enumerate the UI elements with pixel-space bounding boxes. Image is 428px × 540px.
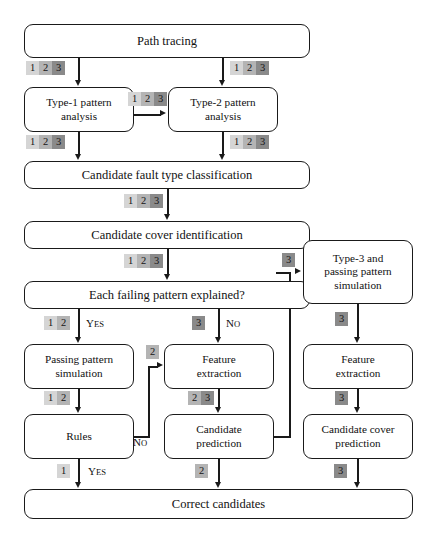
badge-type-1: 1	[230, 61, 243, 75]
arrowhead-feature-right-to-cover-prediction	[354, 407, 360, 413]
node-label: Candidate fault type classification	[78, 168, 256, 183]
badge-type-2: 2	[137, 194, 150, 208]
node-label: Feature extraction	[332, 353, 385, 379]
node-path-tracing[interactable]: Path tracing	[24, 24, 310, 58]
edge-rules-yes-to-correct	[78, 459, 80, 482]
badge-type-3: 3	[154, 92, 167, 106]
node-feature-extraction-middle[interactable]: Feature extraction	[164, 344, 274, 389]
badge-failing-yes: 1 2	[44, 316, 70, 330]
branch-label-text: N	[133, 436, 141, 448]
badge-type-2: 2	[188, 391, 201, 405]
badge-type-1: 1	[57, 464, 70, 478]
edge-prediction-to-type3-seg-h2	[276, 272, 291, 274]
edge-prediction-to-correct	[218, 459, 220, 482]
badge-type1-to-type2: 1 2 3	[128, 92, 167, 106]
edge-passing-sim-to-rules	[78, 389, 80, 407]
badge-path-to-type1: 1 2 3	[26, 61, 65, 75]
branch-label-text: Y	[88, 465, 96, 477]
edge-type1-to-classification	[78, 132, 80, 155]
arrowhead-type3-to-feature-right	[354, 337, 360, 343]
node-label: Candidate cover prediction	[318, 423, 399, 449]
badge-failing-no: 3	[192, 316, 205, 330]
badge-rules-no-to-feature-mid: 2	[146, 345, 159, 359]
badge-type-2: 2	[141, 92, 154, 106]
badge-rules-yes-to-correct: 1	[57, 464, 70, 478]
badge-type-2: 2	[57, 391, 70, 405]
branch-label-text: N	[226, 317, 234, 329]
node-label: Passing pattern simulation	[41, 353, 117, 379]
badge-type-2: 2	[137, 254, 150, 268]
node-correct-candidates[interactable]: Correct candidates	[24, 489, 413, 519]
branch-label-yes-failing: YES	[86, 317, 104, 329]
badge-type-3: 3	[335, 312, 348, 326]
arrowhead-prediction-to-correct	[215, 482, 221, 488]
edge-path-to-type2	[222, 58, 224, 81]
arrowhead-path-to-type1	[75, 80, 81, 86]
badge-type-1: 1	[26, 61, 39, 75]
branch-label-text: Y	[86, 317, 94, 329]
node-label: Candidate cover identification	[87, 228, 246, 243]
badge-type-1: 1	[124, 194, 137, 208]
node-rules[interactable]: Rules	[24, 414, 134, 459]
badge-cover-to-failing: 1 2 3	[124, 254, 163, 268]
badge-type-3: 3	[334, 464, 347, 478]
badge-passing-sim-to-rules: 1 2	[44, 391, 70, 405]
flowchart-diagram: Path tracing Type-1 pattern analysis Typ…	[0, 0, 428, 540]
badge-type2-to-classification: 1 2 3	[230, 135, 269, 149]
node-label: Feature extraction	[193, 353, 246, 379]
node-label: Candidate prediction	[192, 423, 245, 449]
badge-type-3: 3	[52, 135, 65, 149]
badge-feature-mid-to-prediction: 2 3	[188, 391, 214, 405]
node-candidate-prediction[interactable]: Candidate prediction	[164, 414, 274, 459]
arrowhead-type1-to-classification	[75, 154, 81, 160]
node-type2-pattern-analysis[interactable]: Type-2 pattern analysis	[168, 87, 278, 132]
badge-type3-to-feature-right: 3	[335, 312, 348, 326]
badge-type-2: 2	[195, 464, 208, 478]
node-each-failing-pattern-explained[interactable]: Each failing pattern explained?	[24, 281, 310, 309]
arrowhead-classification-to-cover	[164, 214, 170, 220]
node-candidate-cover-prediction[interactable]: Candidate cover prediction	[303, 414, 413, 459]
badge-type-3: 3	[52, 61, 65, 75]
badge-type1-to-classification: 1 2 3	[26, 135, 65, 149]
badge-prediction-to-type3: 3	[282, 253, 295, 267]
branch-label-no-failing: NO	[226, 317, 240, 329]
arrowhead-path-to-type2	[219, 80, 225, 86]
edge-cover-to-failing	[167, 249, 169, 274]
badge-type-1: 1	[44, 391, 57, 405]
badge-type-1: 1	[44, 316, 57, 330]
node-passing-pattern-simulation[interactable]: Passing pattern simulation	[24, 344, 134, 389]
edge-feature-mid-to-prediction	[218, 389, 220, 407]
arrowhead-cover-to-failing	[164, 274, 170, 280]
node-feature-extraction-right[interactable]: Feature extraction	[303, 344, 413, 389]
edge-cover-prediction-to-correct	[357, 459, 359, 482]
badge-type-3: 3	[282, 253, 295, 267]
badge-classification-to-cover: 1 2 3	[124, 194, 163, 208]
badge-type-2: 2	[57, 316, 70, 330]
node-label: Type-1 pattern analysis	[42, 96, 115, 122]
edge-failing-yes-to-passing-sim	[78, 309, 80, 337]
arrowhead-passing-sim-to-rules	[75, 407, 81, 413]
badge-type-3: 3	[150, 194, 163, 208]
arrowhead-prediction-to-type3	[295, 268, 301, 274]
badge-type-1: 1	[26, 135, 39, 149]
badge-prediction-to-correct: 2	[195, 464, 208, 478]
badge-type-3: 3	[256, 61, 269, 75]
node-label: Type-3 and passing pattern simulation	[320, 252, 395, 292]
arrowhead-cover-prediction-to-correct	[354, 482, 360, 488]
edge-classification-to-cover	[167, 189, 169, 214]
node-candidate-cover-identification[interactable]: Candidate cover identification	[24, 221, 310, 249]
badge-type-3: 3	[192, 316, 205, 330]
node-label: Correct candidates	[168, 497, 269, 512]
arrowhead-failing-yes-to-passing-sim	[75, 337, 81, 343]
arrowhead-rules-no-to-feature-mid	[157, 362, 163, 368]
badge-type-3: 3	[256, 135, 269, 149]
node-type3-and-passing-pattern-simulation[interactable]: Type-3 and passing pattern simulation	[303, 240, 413, 304]
arrowhead-feature-mid-to-prediction	[215, 407, 221, 413]
badge-type-2: 2	[243, 135, 256, 149]
node-candidate-fault-type-classification[interactable]: Candidate fault type classification	[24, 161, 310, 189]
node-type1-pattern-analysis[interactable]: Type-1 pattern analysis	[24, 87, 134, 132]
edge-type3-to-feature-right	[357, 304, 359, 337]
node-label: Path tracing	[133, 34, 201, 49]
edge-type1-to-type2	[134, 114, 161, 116]
badge-feature-right-to-cover-prediction: 3	[335, 391, 348, 405]
